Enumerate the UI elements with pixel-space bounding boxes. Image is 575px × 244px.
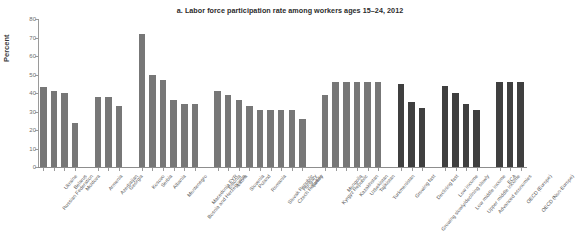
bar xyxy=(398,84,405,167)
y-tick-label: 70 xyxy=(14,35,36,41)
bar xyxy=(473,110,480,167)
x-tick-label: Montenegro xyxy=(185,173,207,198)
x-tick-mark xyxy=(174,168,175,171)
bar xyxy=(496,82,503,167)
x-tick-mark xyxy=(152,168,153,171)
x-tick-mark xyxy=(500,168,501,171)
y-tick-label: 40 xyxy=(14,90,36,96)
x-tick-mark xyxy=(456,168,457,171)
bar xyxy=(267,110,274,167)
y-tick-mark xyxy=(35,112,38,113)
x-tick-label: Romania xyxy=(269,173,287,193)
x-tick-mark xyxy=(401,168,402,171)
y-tick-label: 80 xyxy=(14,16,36,22)
y-tick-mark xyxy=(35,19,38,20)
x-tick-mark xyxy=(466,168,467,171)
x-tick-mark xyxy=(54,168,55,171)
bar xyxy=(517,82,524,167)
x-tick-mark xyxy=(412,168,413,171)
bar xyxy=(181,104,188,167)
bar xyxy=(225,95,232,167)
y-tick-mark xyxy=(35,149,38,150)
bar xyxy=(246,106,253,167)
bar xyxy=(289,110,296,167)
x-tick-mark xyxy=(228,168,229,171)
x-tick-mark xyxy=(218,168,219,171)
y-axis-ticks: 01020304050607080 xyxy=(12,19,36,168)
y-tick-mark xyxy=(35,130,38,131)
bar xyxy=(419,108,426,167)
bar xyxy=(408,102,415,167)
x-tick-mark xyxy=(281,168,282,171)
x-tick-label: Georgia xyxy=(128,173,144,191)
x-tick-mark xyxy=(195,168,196,171)
x-tick-mark xyxy=(43,168,44,171)
bar xyxy=(343,82,350,167)
x-tick-label: Albania xyxy=(171,173,187,190)
x-tick-mark xyxy=(357,168,358,171)
x-tick-mark xyxy=(422,168,423,171)
x-tick-mark xyxy=(142,168,143,171)
bar xyxy=(105,97,112,167)
bar xyxy=(192,104,199,167)
bar xyxy=(116,106,123,167)
x-tick-mark xyxy=(325,168,326,171)
bar xyxy=(278,110,285,167)
x-tick-mark xyxy=(119,168,120,171)
bar xyxy=(72,123,79,167)
bar xyxy=(139,34,146,167)
bar xyxy=(332,82,339,167)
x-tick-mark xyxy=(184,168,185,171)
bar xyxy=(442,86,449,167)
y-tick-mark xyxy=(35,56,38,57)
x-tick-mark xyxy=(378,168,379,171)
bar xyxy=(375,82,382,167)
bar xyxy=(322,95,329,167)
bar xyxy=(51,91,58,167)
y-tick-mark xyxy=(35,75,38,76)
bar xyxy=(160,80,167,167)
x-tick-label: Declining fast xyxy=(435,173,459,200)
x-tick-label: Growing fast xyxy=(413,173,436,199)
x-tick-mark xyxy=(445,168,446,171)
y-tick-label: 60 xyxy=(14,53,36,59)
x-tick-mark xyxy=(163,168,164,171)
bar xyxy=(214,91,221,167)
bar xyxy=(463,104,470,167)
x-tick-mark xyxy=(271,168,272,171)
x-tick-mark xyxy=(336,168,337,171)
y-tick-label: 50 xyxy=(14,72,36,78)
x-tick-mark xyxy=(64,168,65,171)
bar xyxy=(257,110,264,167)
x-tick-mark xyxy=(108,168,109,171)
bar xyxy=(236,100,243,167)
y-tick-mark xyxy=(35,93,38,94)
x-tick-mark xyxy=(477,168,478,171)
x-tick-mark xyxy=(239,168,240,171)
x-tick-mark xyxy=(368,168,369,171)
plot-area xyxy=(38,19,526,167)
bar xyxy=(40,87,47,167)
x-tick-mark xyxy=(75,168,76,171)
y-axis-label: Percent xyxy=(2,34,11,62)
chart-title: a. Labor force participation rate among … xyxy=(110,6,470,15)
bar xyxy=(299,119,306,167)
bar xyxy=(61,93,68,167)
x-tick-mark xyxy=(292,168,293,171)
x-tick-mark xyxy=(510,168,511,171)
x-tick-mark xyxy=(346,168,347,171)
x-tick-mark xyxy=(521,168,522,171)
bar xyxy=(170,100,177,167)
bar xyxy=(149,75,156,168)
y-tick-label: 10 xyxy=(14,146,36,152)
x-tick-mark xyxy=(249,168,250,171)
bar xyxy=(354,82,361,167)
y-tick-mark xyxy=(35,38,38,39)
y-tick-label: 0 xyxy=(14,164,36,170)
y-tick-mark xyxy=(35,167,38,168)
bar xyxy=(364,82,371,167)
bar xyxy=(507,82,514,167)
y-tick-label: 20 xyxy=(14,127,36,133)
y-tick-label: 30 xyxy=(14,109,36,115)
